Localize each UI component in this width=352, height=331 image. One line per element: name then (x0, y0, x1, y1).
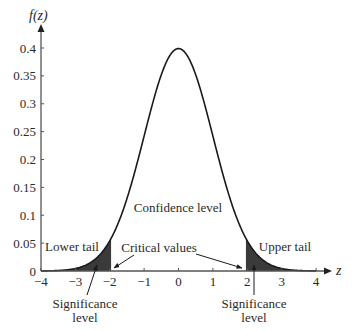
significance-label-right-line2: level (241, 310, 267, 325)
y-tick-label: 0.1 (20, 208, 36, 223)
significance-label-right-line1: Significance (222, 296, 287, 311)
critical-values-label: Critical values (121, 240, 196, 255)
critical-value-arrow-left (114, 255, 134, 268)
x-tick-label: 2 (244, 274, 251, 289)
confidence-level-label: Confidence level (134, 200, 223, 215)
x-tick-label: −1 (137, 274, 151, 289)
y-tick-label: 0.35 (13, 68, 36, 83)
x-tick-label: 3 (278, 274, 285, 289)
y-tick-label: 0.4 (20, 41, 37, 56)
x-tick-label: 1 (210, 274, 217, 289)
x-axis-title: z (335, 263, 342, 278)
y-tick-label: 0.15 (13, 180, 36, 195)
normal-distribution-chart: −4−3−2−101234 00.050.10.150.20.250.30.35… (0, 0, 352, 331)
lower-tail-label: Lower tail (45, 239, 99, 254)
upper-tail-label: Upper tail (259, 239, 312, 254)
critical-value-arrow-right (196, 254, 242, 268)
axes (38, 24, 333, 275)
significance-label-left-line1: Significance (53, 296, 118, 311)
x-tick-label: −4 (34, 274, 48, 289)
y-tick-label: 0.05 (13, 236, 36, 251)
y-axis-arrow-icon (38, 24, 45, 32)
y-axis-title: f(z) (29, 8, 48, 24)
y-tick-label: 0.2 (20, 152, 36, 167)
significance-label-left-line2: level (72, 310, 98, 325)
x-tick-label: 0 (175, 274, 182, 289)
density-curve (41, 49, 316, 271)
y-ticks: 00.050.10.150.20.250.30.350.4 (13, 41, 44, 279)
x-tick-label: 4 (313, 274, 320, 289)
x-axis-arrow-icon (324, 268, 332, 275)
y-tick-label: 0.25 (13, 124, 36, 139)
y-tick-label: 0 (30, 264, 37, 279)
x-tick-label: −2 (103, 274, 117, 289)
x-tick-label: −3 (68, 274, 82, 289)
y-tick-label: 0.3 (20, 96, 36, 111)
